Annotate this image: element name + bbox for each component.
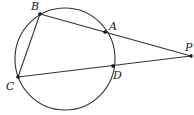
- label-b: B: [30, 0, 39, 13]
- secant-circle-diagram: B A P C D: [0, 0, 194, 115]
- label-p: P: [184, 41, 193, 54]
- label-a: A: [108, 20, 117, 33]
- secant-line-pdc: [18, 56, 191, 77]
- point-d: [111, 64, 115, 68]
- circle: [15, 8, 115, 110]
- point-p: [189, 54, 193, 58]
- label-c: C: [6, 80, 15, 93]
- point-a: [103, 30, 107, 34]
- point-c: [16, 75, 20, 79]
- label-d: D: [112, 69, 122, 82]
